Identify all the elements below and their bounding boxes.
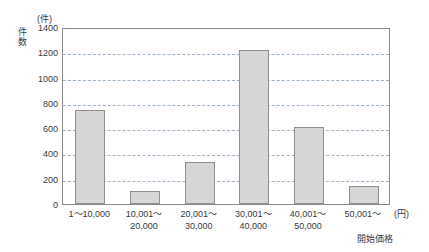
y-axis-tick-label: 800: [28, 100, 58, 109]
x-axis-tick-labels: 1～10,00010,001～ 20,00020,001～ 30,00030,0…: [62, 208, 390, 246]
bar-slot: [118, 29, 173, 204]
plot-area: [62, 28, 390, 205]
bar-slot: [282, 29, 337, 204]
y-axis-tick-label: 1200: [28, 49, 58, 58]
y-axis-tick-label: 1400: [28, 24, 58, 33]
x-axis-unit-label: (円): [394, 208, 409, 220]
bar-slot: [336, 29, 391, 204]
y-axis-tick-label: 200: [28, 176, 58, 185]
x-axis-tick-label: 20,001～ 30,000: [171, 208, 226, 232]
x-axis-tick-label: 30,001～ 40,000: [226, 208, 281, 232]
bar-slot: [172, 29, 227, 204]
bar-series: [63, 29, 389, 204]
x-axis-tick-label: 40,001～ 50,000: [281, 208, 336, 232]
y-axis-tick-label: 1000: [28, 75, 58, 84]
x-axis-tick-label: 50,001～: [335, 208, 390, 220]
y-axis-tick-labels: 1400120010008006004002000: [26, 28, 58, 205]
bar-slot: [63, 29, 118, 204]
y-axis-tick-label: 400: [28, 150, 58, 159]
bar: [130, 191, 160, 204]
bar: [294, 127, 324, 204]
x-axis-title: 開始価格: [357, 234, 393, 245]
bar: [75, 110, 105, 204]
bar: [239, 50, 269, 204]
bar: [349, 186, 379, 204]
y-axis-tick-label: 0: [28, 201, 58, 210]
bar-slot: [227, 29, 282, 204]
x-axis-tick-label: 1～10,000: [62, 208, 117, 220]
y-axis-tick-label: 600: [28, 125, 58, 134]
bar: [185, 162, 215, 204]
bar-chart: (件) 件数 1400120010008006004002000 1～10,00…: [0, 0, 429, 252]
x-axis-tick-label: 10,001～ 20,000: [117, 208, 172, 232]
